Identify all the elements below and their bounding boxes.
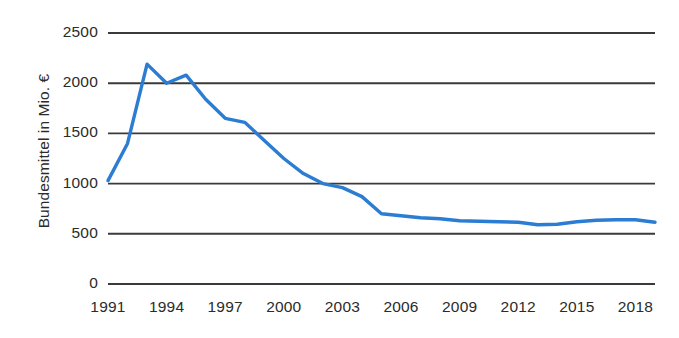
data-series-line bbox=[108, 64, 655, 225]
chart-container: Bundesmittel in Mio. € 05001000150020002… bbox=[0, 0, 679, 338]
data-series-group bbox=[108, 64, 655, 225]
chart-plot-area bbox=[0, 0, 679, 338]
gridlines bbox=[108, 33, 655, 284]
